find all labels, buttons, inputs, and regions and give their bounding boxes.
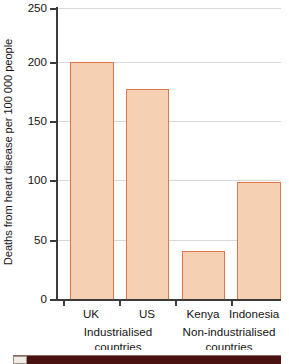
x-cat-label-uk: UK: [64, 307, 118, 321]
y-tick-mark-150: [50, 121, 56, 123]
x-tick-mark-2: [175, 300, 177, 306]
bottom-page-strip: [13, 355, 281, 364]
y-tick-label-100: 100: [0, 174, 47, 186]
gridline-250: [56, 8, 281, 9]
y-tick-label-250: 250: [0, 2, 47, 14]
plot-area: [56, 8, 281, 300]
bar-indonesia[interactable]: [237, 182, 281, 300]
x-tick-mark-0: [63, 300, 65, 306]
bottom-strip-marker: [13, 356, 27, 364]
bar-us[interactable]: [126, 89, 169, 300]
page-edge-shadow: [0, 350, 281, 354]
y-tick-label-50: 50: [0, 234, 47, 246]
group-label-non-industrialised-line1: Non-industrialised: [170, 325, 288, 340]
group-label-industrialised-line1: Industrialised: [58, 325, 178, 340]
y-tick-label-150: 150: [0, 115, 47, 127]
y-tick-mark-200: [50, 62, 56, 64]
x-tick-mark-3: [231, 300, 233, 306]
y-tick-mark-50: [50, 240, 56, 242]
bar-kenya[interactable]: [182, 251, 225, 300]
x-cat-label-indonesia: Indonesia: [229, 307, 289, 321]
x-cat-label-kenya: Kenya: [176, 307, 230, 321]
y-tick-label-0: 0: [0, 293, 47, 305]
x-axis-line: [56, 299, 281, 301]
x-tick-mark-1: [119, 300, 121, 306]
y-axis-line: [56, 7, 58, 301]
x-cat-label-us: US: [120, 307, 174, 321]
y-tick-label-200: 200: [0, 56, 47, 68]
bar-uk[interactable]: [70, 62, 114, 300]
y-axis-title: Deaths from heart disease per 100 000 pe…: [0, 2, 17, 302]
y-tick-mark-0: [50, 299, 56, 301]
y-tick-mark-100: [50, 180, 56, 182]
y-tick-mark-250: [50, 8, 56, 10]
